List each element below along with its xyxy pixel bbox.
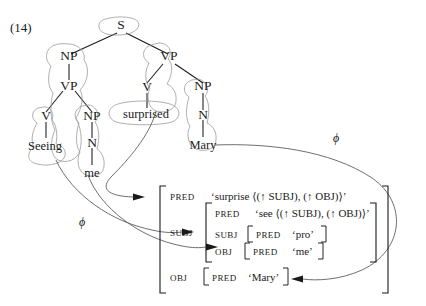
bracket-subj-left (206, 203, 212, 262)
node-n1: N (87, 135, 97, 150)
phi-arrow-obj-outer (291, 276, 303, 283)
phi-label-right: ϕ (333, 131, 339, 145)
fstruct-val-see: ‘see ⟨(↑ SUBJ), (↑ OBJ)⟩’ (255, 207, 370, 220)
fstruct-val-mary: ‘Mary’ (248, 271, 279, 283)
node-s: S (117, 17, 125, 32)
fstruct-attr-pred-mary: PRED (212, 273, 237, 283)
node-np3: NP (194, 78, 211, 93)
leaf-mary: Mary (189, 138, 217, 152)
bracket-mary-left (204, 268, 209, 285)
bracket-me-left (245, 243, 250, 259)
fstruct-val-pro: ‘pro’ (292, 228, 314, 240)
fstruct-attr-pred-pro: PRED (256, 230, 281, 240)
node-np2: NP (83, 108, 100, 123)
node-v1: V (41, 108, 51, 123)
node-vp2: VP (160, 48, 177, 63)
phi-curve-np1-to-subj (56, 160, 182, 233)
node-vp1: VP (60, 78, 77, 93)
fstruct-val-me: ‘me’ (292, 245, 313, 257)
bracket-pro-right (321, 226, 326, 242)
phi-label-left: ϕ (79, 215, 85, 229)
f-structure-content: PRED ‘surprise ⟨(↑ SUBJ), (↑ OBJ)⟩’ SUBJ… (170, 190, 370, 283)
fstruct-attr-subj-inner: SUBJ (215, 230, 238, 240)
node-np1: NP (60, 48, 77, 63)
bracket-mary-right (283, 268, 288, 285)
bracket-pro-left (248, 226, 253, 242)
lfg-correspondence-figure: (14) (0, 0, 426, 306)
bracket-outer-left (160, 186, 166, 293)
phi-arrow-root (133, 194, 145, 201)
fstruct-attr-obj-inner: OBJ (215, 247, 232, 257)
leaf-seeing: Seeing (28, 139, 63, 153)
bracket-me-right (318, 243, 323, 259)
fstruct-val-surprise: ‘surprise ⟨(↑ SUBJ), (↑ OBJ)⟩’ (211, 190, 346, 203)
tree-leaves: Seeing me surprised Mary (28, 107, 217, 180)
fstruct-attr-subj-outer: SUBJ (170, 228, 193, 238)
edge-s-np1 (71, 33, 117, 54)
fstruct-attr-obj-outer: OBJ (170, 273, 187, 283)
bracket-subj-right (370, 203, 376, 262)
node-n2: N (198, 107, 208, 122)
leaf-me: me (84, 166, 100, 180)
example-number: (14) (10, 20, 32, 35)
fstruct-attr-pred-root: PRED (170, 192, 195, 202)
figure-canvas: (14) (0, 0, 426, 306)
fstruct-attr-pred-me: PRED (253, 247, 278, 257)
phi-curve-vp2-to-root (106, 111, 156, 197)
leaf-surprised: surprised (123, 107, 170, 121)
bracket-outer-right (382, 186, 388, 293)
node-v2: V (142, 79, 152, 94)
fstruct-attr-pred-see: PRED (215, 209, 240, 219)
